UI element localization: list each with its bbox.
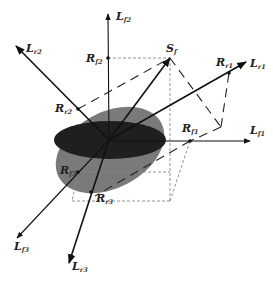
label-Lf2: Lf2 [115,10,132,24]
point-Rf3 [76,170,80,174]
label-Lr3: Lr3 [71,260,88,274]
label-Lf1: Lf1 [249,124,265,138]
label-Rf1: Rf1 [181,122,198,136]
point-Rf2 [106,56,110,60]
label-Lr2: Lr2 [25,42,42,56]
label-Rr2: Rr2 [54,102,73,116]
point-Rr1 [227,71,231,75]
label-Lr1: Lr1 [249,57,266,71]
point-Rr2 [76,107,80,111]
point-Rr3 [89,190,93,194]
label-Lf3: Lf3 [13,240,30,254]
label-Rf2: Rf2 [85,52,103,66]
label-Rr1: Rr1 [215,56,233,70]
vector-diagram: Lf2 Lr2 Sf Lr1 Lf1 Lf3 Lr3 Rf2 Rr2 Rr1 R… [0,0,273,282]
label-Rr3: Rr3 [95,192,114,206]
vector-Lr1 [109,62,246,140]
point-Rf1 [188,139,192,143]
label-Sf: Sf [166,42,178,56]
